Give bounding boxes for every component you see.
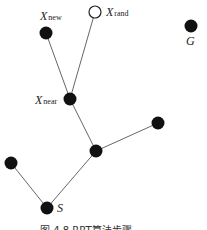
- node-a: [5, 157, 18, 170]
- label-xrand: Xrand: [105, 5, 129, 19]
- edge-s-b: [47, 151, 96, 208]
- nodes: [5, 6, 198, 215]
- label-s: S: [57, 201, 63, 215]
- edge-xnear-xnew: [46, 33, 70, 99]
- node-xnear: [64, 93, 77, 106]
- edges: [11, 12, 158, 208]
- edge-b-xnear: [70, 99, 96, 151]
- node-c: [152, 117, 165, 130]
- rrt-diagram: Xnew Xrand Xnear G S 图 4.8 RRT算法步骤: [0, 0, 207, 230]
- node-xnew: [40, 27, 53, 40]
- edge-b-c: [96, 123, 158, 151]
- label-xnew: Xnew: [39, 9, 62, 23]
- label-g: G: [186, 34, 195, 48]
- node-b: [90, 145, 103, 158]
- node-s: [41, 202, 54, 215]
- edge-s-a: [11, 163, 47, 208]
- node-g: [185, 20, 198, 33]
- figure-caption: 图 4.8 RRT算法步骤: [40, 224, 132, 230]
- label-xnear: Xnear: [34, 93, 57, 107]
- labels: Xnew Xrand Xnear G S 图 4.8 RRT算法步骤: [34, 5, 195, 230]
- node-xrand: [89, 6, 101, 18]
- edge-xnear-xrand: [70, 12, 95, 99]
